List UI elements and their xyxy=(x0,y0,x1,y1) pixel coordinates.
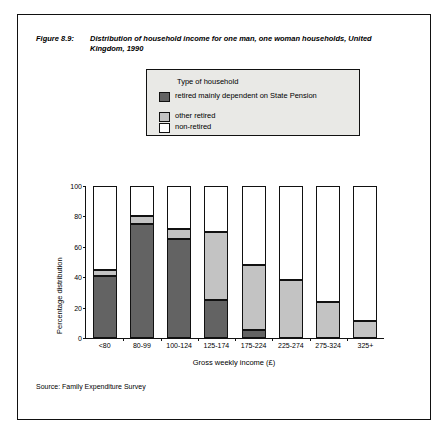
chart-plot-area: 020406080100<8080-99100-124125-174175-22… xyxy=(85,186,384,339)
bar-segment xyxy=(353,321,377,338)
figure-source: Source: Family Expenditure Survey xyxy=(36,383,146,390)
x-axis-tickmark xyxy=(235,338,236,341)
bar-stack xyxy=(353,186,377,338)
bar-segment xyxy=(316,302,340,338)
bar-segment xyxy=(242,186,266,265)
figure-page: Figure 8.9: Distribution of household in… xyxy=(0,0,446,433)
bar-segment xyxy=(204,232,228,300)
x-axis-tickmark xyxy=(272,338,273,341)
y-axis-tick: 100 xyxy=(70,183,82,190)
legend-swatch-retired-state-pension xyxy=(159,92,170,102)
legend-label-other-retired: other retired xyxy=(175,111,355,120)
y-axis-label: Percentage distribution xyxy=(46,186,58,338)
bar-segment xyxy=(353,186,377,321)
x-axis-tickmark xyxy=(310,338,311,341)
bar-stack xyxy=(130,186,154,338)
bar-segment xyxy=(93,276,117,338)
bar-segment xyxy=(242,330,266,338)
legend-label-non-retired: non-retired xyxy=(175,122,355,131)
bar-stack xyxy=(242,186,266,338)
x-axis-tickmark xyxy=(347,338,348,341)
bar-stack xyxy=(204,186,228,338)
y-axis-tick: 40 xyxy=(74,274,82,281)
bar-segment xyxy=(93,186,117,270)
bar-segment xyxy=(204,186,228,232)
legend-title: Type of household xyxy=(177,77,238,86)
x-axis-label: Gross weekly income (£) xyxy=(85,358,383,367)
y-axis-tickmark xyxy=(83,338,86,339)
bar-stack xyxy=(279,186,303,338)
legend-label-retired-state-pension: retired mainly dependent on State Pensio… xyxy=(175,91,355,100)
bar-segment xyxy=(167,239,191,338)
bar-stack xyxy=(93,186,117,338)
legend-swatch-other-retired xyxy=(159,112,170,122)
y-axis-tickmark xyxy=(83,216,86,217)
legend-swatch-non-retired xyxy=(159,123,170,133)
bar-segment xyxy=(130,216,154,224)
y-axis-tickmark xyxy=(83,277,86,278)
bar-segment xyxy=(130,186,154,216)
bar-stack xyxy=(316,186,340,338)
bar-segment xyxy=(242,265,266,330)
y-axis-tickmark xyxy=(83,308,86,309)
bar-segment xyxy=(167,229,191,240)
y-axis-tick: 20 xyxy=(74,304,82,311)
bar-segment xyxy=(130,224,154,338)
x-axis-tickmark xyxy=(123,338,124,341)
bar-segment xyxy=(93,270,117,276)
y-axis-tick: 60 xyxy=(74,243,82,250)
chart-legend: Type of household retired mainly depende… xyxy=(146,69,360,136)
bar-segment xyxy=(167,186,191,229)
figure-number: Figure 8.9: xyxy=(36,34,74,43)
y-axis-tick: 80 xyxy=(74,213,82,220)
y-axis-tickmark xyxy=(83,247,86,248)
bar-segment xyxy=(279,280,303,338)
figure-title: Distribution of household income for one… xyxy=(90,34,400,54)
bar-segment xyxy=(316,186,340,302)
bar-segment xyxy=(279,186,303,280)
x-axis-tickmark xyxy=(161,338,162,341)
y-axis-tickmark xyxy=(83,186,86,187)
x-axis-tick: 325+ xyxy=(343,342,387,349)
y-axis-tick: 0 xyxy=(78,335,82,342)
bar-segment xyxy=(204,300,228,338)
bar-stack xyxy=(167,186,191,338)
x-axis-tickmark xyxy=(198,338,199,341)
